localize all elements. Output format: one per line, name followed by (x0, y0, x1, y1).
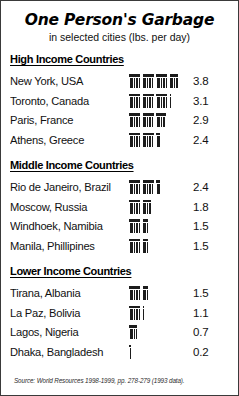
trash-can-glyph (129, 306, 140, 320)
trash-can-glyph (170, 74, 179, 88)
trash-can-glyph (156, 94, 167, 108)
trash-can-icon (156, 74, 167, 88)
trash-can-icon (129, 286, 140, 300)
trash-can-glyph (170, 94, 172, 108)
data-row: New York, USA3.8 (10, 71, 229, 91)
city-label: New York, USA (10, 75, 125, 87)
data-row: Rio de Janeiro, Brazil2.4 (10, 177, 229, 197)
trash-can-icon (170, 94, 172, 108)
data-row: Tirana, Albania1.5 (10, 283, 229, 303)
city-label: Manila, Phillipines (10, 240, 125, 252)
trash-can-glyph (129, 239, 140, 253)
trash-can-icon (156, 133, 160, 147)
trash-can-glyph (143, 306, 145, 320)
trash-can-icon (143, 113, 154, 127)
data-row: Toronto, Canada3.1 (10, 91, 229, 111)
value-label: 0.7 (193, 326, 208, 338)
trash-can-glyph (156, 180, 160, 194)
trash-can-icon (143, 219, 149, 233)
trash-can-glyph (129, 74, 140, 88)
value-label: 2.4 (193, 134, 208, 146)
trash-can-pictogram (129, 345, 193, 359)
trash-can-icon (129, 133, 140, 147)
trash-can-glyph (129, 94, 140, 108)
value-label: 2.9 (193, 114, 208, 126)
value-label: 1.5 (193, 240, 208, 252)
trash-can-glyph (129, 219, 140, 233)
trash-can-pictogram (129, 239, 193, 253)
trash-can-glyph (129, 286, 140, 300)
trash-can-icon (143, 200, 152, 214)
city-label: Lagos, Nigeria (10, 326, 125, 338)
trash-can-glyph (143, 113, 154, 127)
city-label: Rio de Janeiro, Brazil (10, 181, 125, 193)
trash-can-icon (129, 219, 140, 233)
trash-can-icon (129, 180, 140, 194)
value-label: 0.2 (193, 346, 208, 358)
section-rows: Tirana, Albania1.5La Paz, Bolivia1.1Lago… (10, 283, 229, 361)
trash-can-icon (156, 113, 166, 127)
trash-can-glyph (129, 133, 140, 147)
trash-can-glyph (129, 345, 131, 359)
trash-can-icon (156, 94, 167, 108)
city-label: Tirana, Albania (10, 287, 125, 299)
trash-can-glyph (143, 180, 154, 194)
trash-can-pictogram (129, 219, 193, 233)
trash-can-glyph (129, 325, 137, 339)
section-middle-income-countries: Middle Income CountriesRio de Janeiro, B… (10, 159, 229, 255)
trash-can-icon (129, 200, 140, 214)
section-rows: New York, USA3.8Toronto, Canada3.1Paris,… (10, 71, 229, 149)
data-row: Athens, Greece2.4 (10, 130, 229, 150)
data-row: Lagos, Nigeria0.7 (10, 322, 229, 342)
sections-container: High Income CountriesNew York, USA3.8Tor… (10, 53, 229, 361)
trash-can-glyph (143, 219, 149, 233)
trash-can-glyph (143, 74, 154, 88)
trash-can-pictogram (129, 94, 193, 108)
trash-can-icon (129, 94, 140, 108)
city-label: Moscow, Russia (10, 201, 125, 213)
trash-can-pictogram (129, 325, 193, 339)
trash-can-icon (143, 286, 149, 300)
section-heading: Lower Income Countries (10, 265, 220, 277)
trash-can-icon (129, 306, 140, 320)
trash-can-pictogram (129, 180, 193, 194)
trash-can-pictogram (129, 133, 193, 147)
trash-can-icon (129, 113, 140, 127)
value-label: 1.1 (193, 307, 208, 319)
city-label: Athens, Greece (10, 134, 125, 146)
title-block: One Person's Garbage in selected cities … (10, 9, 229, 43)
data-row: Dhaka, Bangladesh0.2 (10, 342, 229, 362)
trash-can-icon (129, 239, 140, 253)
trash-can-icon (143, 306, 145, 320)
section-rows: Rio de Janeiro, Brazil2.4Moscow, Russia1… (10, 177, 229, 255)
trash-can-glyph (143, 200, 152, 214)
value-label: 1.8 (193, 201, 208, 213)
page-title: One Person's Garbage (10, 12, 229, 30)
trash-can-glyph (143, 286, 149, 300)
trash-can-pictogram (129, 74, 193, 88)
infographic-card: One Person's Garbage in selected cities … (0, 0, 239, 396)
trash-can-pictogram (129, 286, 193, 300)
city-label: Dhaka, Bangladesh (10, 346, 125, 358)
data-row: Windhoek, Namibia1.5 (10, 216, 229, 236)
section-heading: Middle Income Countries (10, 159, 220, 171)
value-label: 3.1 (193, 95, 208, 107)
trash-can-pictogram (129, 113, 193, 127)
data-row: Manila, Phillipines1.5 (10, 236, 229, 256)
source-note: Source: World Resources 1998-1999, pp. 2… (14, 377, 185, 384)
city-label: Windhoek, Namibia (10, 220, 125, 232)
section-lower-income-countries: Lower Income CountriesTirana, Albania1.5… (10, 265, 229, 361)
city-label: Paris, France (10, 114, 125, 126)
trash-can-pictogram (129, 200, 193, 214)
data-row: Moscow, Russia1.8 (10, 197, 229, 217)
page-subtitle: in selected cities (lbs. per day) (10, 31, 229, 44)
trash-can-glyph (129, 180, 140, 194)
trash-can-icon (143, 94, 154, 108)
trash-can-icon (129, 325, 137, 339)
trash-can-icon (143, 74, 154, 88)
trash-can-glyph (156, 113, 166, 127)
trash-can-icon (143, 133, 154, 147)
trash-can-icon (170, 74, 179, 88)
data-row: Paris, France2.9 (10, 110, 229, 130)
section-high-income-countries: High Income CountriesNew York, USA3.8Tor… (10, 53, 229, 149)
